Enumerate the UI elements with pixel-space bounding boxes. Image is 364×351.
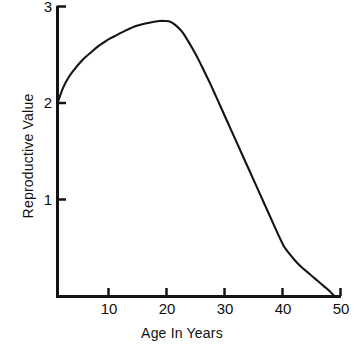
x-tick-label-40: 40 [268, 300, 298, 317]
y-axis-title: Reproductive Value [20, 66, 36, 246]
x-tick-label-10: 10 [94, 300, 124, 317]
y-tick-label-3: 3 [30, 0, 52, 15]
chart-canvas [0, 0, 364, 351]
x-tick-label-30: 30 [210, 300, 240, 317]
x-tick-label-20: 20 [152, 300, 182, 317]
x-tick-label-50: 50 [326, 300, 356, 317]
x-axis-title: Age In Years [0, 325, 364, 341]
reproductive-value-chart: 3 2 1 10 20 30 40 50 Age In Years Reprod… [0, 0, 364, 351]
reproductive-value-curve [58, 21, 335, 297]
